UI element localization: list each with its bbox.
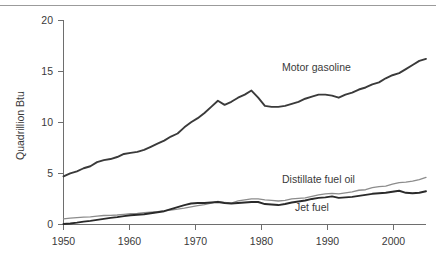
x-tick-label-1970: 1970: [184, 235, 208, 247]
y-axis-title: Quadrillion Btu: [14, 91, 26, 160]
series-line-distillate-fuel-oil: [64, 177, 427, 218]
y-tick-label-15: 15: [41, 65, 53, 77]
x-tick-label-1980: 1980: [250, 235, 274, 247]
x-tick-label-1960: 1960: [118, 235, 142, 247]
series-line-motor-gasoline: [64, 59, 427, 177]
x-tick-label-1990: 1990: [316, 235, 340, 247]
y-tick-label-20: 20: [41, 14, 53, 26]
line-chart-plot: 20 15 10 5 0 1950 1960 1970 1980 1990 20…: [0, 0, 436, 257]
series-label-motor-gasoline: Motor gasoline: [282, 61, 351, 73]
y-tick-label-10: 10: [41, 116, 53, 128]
series-label-jet-fuel: Jet fuel: [295, 201, 329, 213]
series-group: [64, 59, 427, 224]
x-tick-label-1950: 1950: [52, 235, 76, 247]
series-label-distillate-fuel-oil: Distillate fuel oil: [282, 173, 355, 185]
y-tick-label-0: 0: [47, 218, 53, 230]
series-line-jet-fuel: [64, 191, 427, 224]
y-tick-label-5: 5: [47, 167, 53, 179]
chart-container: 20 15 10 5 0 1950 1960 1970 1980 1990 20…: [0, 0, 436, 257]
x-tick-label-2000: 2000: [382, 235, 406, 247]
